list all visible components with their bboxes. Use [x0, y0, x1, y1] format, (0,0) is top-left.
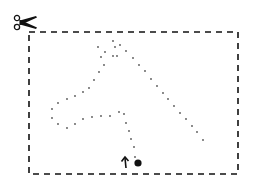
trace-dot — [185, 118, 187, 120]
trace-dot — [112, 55, 114, 57]
trace-dot — [116, 55, 118, 57]
trace-dot — [66, 98, 68, 100]
trace-dot — [74, 95, 76, 97]
trace-dot — [88, 87, 90, 89]
dashed-cut-frame — [29, 32, 238, 174]
trace-dot — [74, 123, 76, 125]
arrow-up-icon — [122, 157, 129, 168]
trace-dot — [104, 51, 106, 53]
trace-dot — [150, 78, 152, 80]
trace-dot — [103, 64, 105, 66]
trace-dot — [66, 127, 68, 129]
trace-dot — [82, 118, 84, 120]
trace-dot — [156, 85, 158, 87]
dotted-trace-path — [51, 40, 204, 158]
filled-dot-icon — [134, 159, 141, 166]
trace-dot — [130, 138, 132, 140]
trace-dot — [98, 71, 100, 73]
trace-dot — [196, 131, 198, 133]
trace-dot — [91, 116, 93, 118]
trace-dot — [109, 115, 111, 117]
trace-dot — [118, 111, 120, 113]
trace-dot — [51, 108, 53, 110]
trace-dot — [57, 102, 59, 104]
trace-dot — [132, 57, 134, 59]
trace-dot — [138, 64, 140, 66]
trace-dot — [125, 50, 127, 52]
trace-dot — [82, 91, 84, 93]
trace-dot — [100, 115, 102, 117]
trace-dot — [128, 130, 130, 132]
trace-dot — [57, 123, 59, 125]
trace-dot — [97, 46, 99, 48]
trace-dot — [134, 156, 136, 158]
trace-dot — [191, 125, 193, 127]
trace-dot — [123, 113, 125, 115]
trace-dot — [133, 146, 135, 148]
trace-dot — [179, 112, 181, 114]
trace-dot — [100, 56, 102, 58]
cutting-worksheet — [0, 0, 257, 189]
trace-dot — [51, 117, 53, 119]
trace-dot — [167, 98, 169, 100]
trace-dot — [162, 92, 164, 94]
trace-dot — [173, 105, 175, 107]
trace-dot — [144, 70, 146, 72]
trace-dot — [112, 40, 114, 42]
trace-dot — [125, 122, 127, 124]
trace-dot — [202, 139, 204, 141]
trace-dot — [119, 44, 121, 46]
trace-dot — [114, 46, 116, 48]
trace-dot — [93, 79, 95, 81]
scissors-icon — [14, 15, 37, 29]
